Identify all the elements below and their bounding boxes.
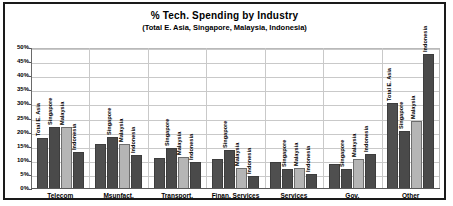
y-tick-label: 30%: [5, 100, 29, 106]
bar[interactable]: Indonesia: [190, 162, 201, 189]
bar-fill: [95, 144, 106, 189]
bar-series-label: Indonesia: [129, 127, 137, 153]
bar-series-label: Singapore: [280, 140, 288, 167]
y-tick-label: 40%: [5, 72, 29, 78]
category-label: Finan. Services: [206, 191, 264, 205]
bar[interactable]: [154, 158, 165, 189]
y-tick-label: 5%: [5, 171, 29, 177]
bar-series-label: Total E. Asia: [385, 68, 393, 101]
bar-series-label: Singapore: [221, 120, 229, 147]
y-tick-mark: [29, 189, 32, 190]
bar[interactable]: Singapore: [282, 169, 293, 189]
category-label: Telecom: [31, 191, 89, 205]
bar-series-label: Malaysia: [292, 143, 300, 166]
bar[interactable]: Total E. Asia: [37, 138, 48, 189]
bars: Total E. AsiaSingaporeMalaysiaIndonesia: [382, 48, 440, 189]
bar-series-label: Malaysia: [409, 96, 417, 119]
bar-series-label: Indonesia: [304, 145, 312, 171]
bar-group: SingaporeMalaysiaIndonesia: [148, 48, 206, 189]
bar-group: SingaporeMalaysiaIndonesia: [323, 48, 381, 189]
bar[interactable]: Indonesia: [73, 152, 84, 189]
bar[interactable]: Malaysia: [178, 157, 189, 189]
bar[interactable]: [212, 159, 223, 189]
bars: SingaporeMalaysiaIndonesia: [323, 48, 381, 189]
bar[interactable]: Malaysia: [353, 159, 364, 189]
category-labels: TelecomMsunfact.Transport.Finan. Service…: [31, 191, 440, 205]
bar[interactable]: [95, 144, 106, 189]
bar-group: Total E. AsiaSingaporeMalaysiaIndonesia: [382, 48, 440, 189]
bar-series-label: Indonesia: [70, 124, 78, 150]
bar-series-label: Indonesia: [421, 26, 429, 52]
y-tick-label: 50%: [5, 44, 29, 50]
bar-group: SingaporeMalaysiaIndonesia: [265, 48, 323, 189]
bar-fill: [49, 127, 60, 189]
bar-series-label: Malaysia: [350, 134, 358, 157]
bar[interactable]: Indonesia: [365, 154, 376, 189]
bar-series-label: Singapore: [163, 119, 171, 146]
category-label: Transport.: [148, 191, 206, 205]
y-tick-label: 15%: [5, 143, 29, 149]
bar-fill: [37, 138, 48, 189]
bar[interactable]: Indonesia: [423, 54, 434, 189]
bar-series-label: Singapore: [397, 102, 405, 129]
bars: SingaporeMalaysiaIndonesia: [148, 48, 206, 189]
bar[interactable]: Singapore: [107, 137, 118, 189]
bar-fill: [353, 159, 364, 189]
plot-area-wrapper: Total E. AsiaSingaporeMalaysiaIndonesiaS…: [31, 48, 440, 189]
bar-fill: [212, 159, 223, 189]
bar[interactable]: Singapore: [341, 169, 352, 189]
bar[interactable]: Singapore: [399, 131, 410, 189]
bars: Total E. AsiaSingaporeMalaysiaIndonesia: [31, 48, 89, 189]
bar-group: Total E. AsiaSingaporeMalaysiaIndonesia: [31, 48, 89, 189]
chart-frame: % Tech. Spending by Industry (Total E. A…: [3, 2, 446, 200]
bar-series-label: Malaysia: [117, 119, 125, 142]
bar[interactable]: Singapore: [49, 127, 60, 189]
y-tick-label: 35%: [5, 86, 29, 92]
chart-subtitle: (Total E. Asia, Singapore, Malaysia, Ind…: [5, 23, 444, 33]
bar[interactable]: Malaysia: [411, 121, 422, 189]
bar-series-label: Malaysia: [58, 102, 66, 125]
bar-series-label: Singapore: [46, 98, 54, 125]
y-axis: 50%45%40%35%30%25%20%15%10%5%0%: [5, 48, 29, 189]
bar-fill: [365, 154, 376, 189]
bar-fill: [178, 157, 189, 189]
category-label: Services: [265, 191, 323, 205]
bar[interactable]: Indonesia: [306, 174, 317, 190]
bar-series-label: Indonesia: [187, 134, 195, 160]
bar-fill: [399, 131, 410, 189]
y-tick-label: 10%: [5, 157, 29, 163]
bar-fill: [154, 158, 165, 189]
bar-series-label: Total E. Asia: [34, 103, 42, 136]
y-tick-label: 45%: [5, 58, 29, 64]
bar-fill: [131, 155, 142, 189]
bar-fill: [329, 164, 340, 189]
bar-series-label: Indonesia: [245, 148, 253, 174]
bar-fill: [411, 121, 422, 189]
bar-series-label: Singapore: [338, 140, 346, 167]
title-block: % Tech. Spending by Industry (Total E. A…: [5, 10, 444, 33]
bar-group: SingaporeMalaysiaIndonesia: [206, 48, 264, 189]
chart-title: % Tech. Spending by Industry: [5, 10, 444, 22]
y-tick-label: 20%: [5, 129, 29, 135]
bar-fill: [190, 162, 201, 189]
bar[interactable]: [329, 164, 340, 189]
category-label: Msunfact.: [89, 191, 147, 205]
bar-fill: [306, 174, 317, 190]
bar[interactable]: Indonesia: [131, 155, 142, 189]
bar-series-label: Malaysia: [233, 143, 241, 166]
bars: SingaporeMalaysiaIndonesia: [206, 48, 264, 189]
category-label: Other: [382, 191, 440, 205]
bar-series-label: Indonesia: [362, 126, 370, 152]
bars: SingaporeMalaysiaIndonesia: [89, 48, 147, 189]
y-tick-label: 0%: [5, 185, 29, 191]
bar-series-label: Singapore: [105, 107, 113, 134]
bar-fill: [73, 152, 84, 189]
x-axis-line: [31, 188, 440, 189]
bar-fill: [282, 169, 293, 189]
bar-fill: [341, 169, 352, 189]
bar-fill: [423, 54, 434, 189]
y-tick-label: 25%: [5, 115, 29, 121]
bars: SingaporeMalaysiaIndonesia: [265, 48, 323, 189]
bar-fill: [107, 137, 118, 189]
bar-groups: Total E. AsiaSingaporeMalaysiaIndonesiaS…: [31, 48, 440, 189]
